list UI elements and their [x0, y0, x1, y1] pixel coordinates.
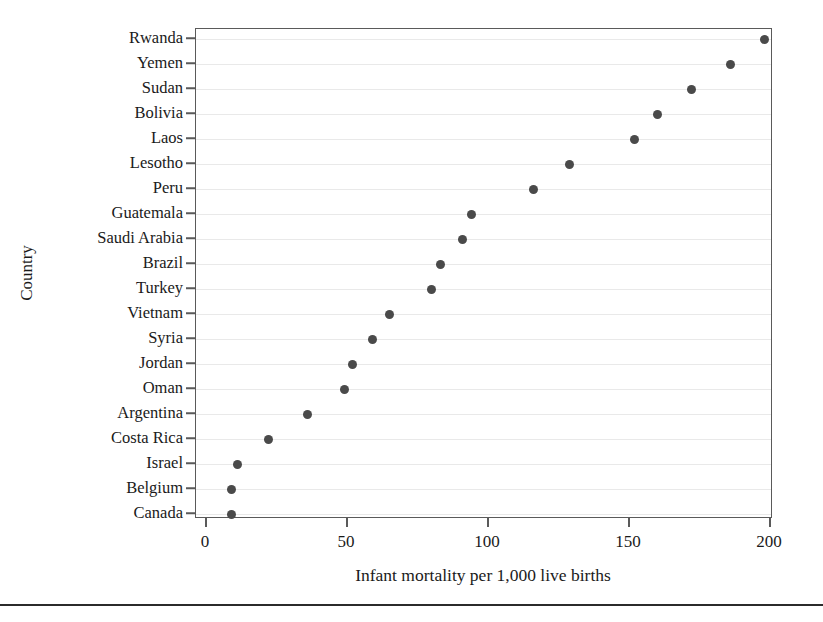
y-axis-tick-label: Rwanda [129, 30, 183, 47]
y-axis-tick-label: Costa Rica [111, 430, 183, 447]
data-point [630, 135, 639, 144]
y-axis-tick-label: Argentina [117, 405, 183, 422]
y-axis-tick-mark [186, 312, 195, 314]
y-axis-tick-labels: RwandaYemenSudanBoliviaLaosLesothoPeruGu… [0, 0, 183, 622]
data-point [653, 110, 662, 119]
gridline [196, 139, 771, 140]
gridline [196, 164, 771, 165]
y-axis-tick-label: Lesotho [130, 155, 183, 172]
gridline [196, 464, 771, 465]
gridline [196, 239, 771, 240]
data-point [385, 310, 394, 319]
y-axis-tick-mark [186, 487, 195, 489]
y-axis-tick-label: Saudi Arabia [97, 230, 183, 247]
data-point [565, 160, 574, 169]
gridline [196, 314, 771, 315]
y-axis-tick-label: Bolivia [134, 105, 183, 122]
data-point [467, 210, 476, 219]
y-axis-tick-mark [186, 187, 195, 189]
y-axis-tick-label: Guatemala [112, 205, 183, 222]
x-axis-tick-label: 100 [474, 532, 500, 552]
y-axis-tick-label: Brazil [143, 255, 183, 272]
data-point [436, 260, 445, 269]
x-axis-tick-label: 50 [338, 532, 355, 552]
y-axis-tick-mark [186, 387, 195, 389]
y-axis-tick-mark [186, 62, 195, 64]
gridline [196, 89, 771, 90]
x-axis-title: Infant mortality per 1,000 live births [355, 565, 611, 586]
y-axis-tick-label: Laos [151, 130, 183, 147]
y-axis-tick-label: Syria [148, 330, 183, 347]
y-axis-tick-mark [186, 37, 195, 39]
gridline [196, 514, 771, 515]
bottom-rule [0, 604, 823, 606]
x-axis-tick-label: 0 [201, 532, 210, 552]
y-axis-tick-mark [186, 512, 195, 514]
x-axis-tick-mark [487, 518, 489, 527]
gridline [196, 489, 771, 490]
y-axis-tick-mark [186, 212, 195, 214]
data-point [348, 360, 357, 369]
x-axis-tick-mark [628, 518, 630, 527]
gridline [196, 214, 771, 215]
y-axis-tick-mark [186, 337, 195, 339]
y-axis-tick-mark [186, 137, 195, 139]
y-axis-title: Country [17, 245, 37, 301]
y-axis-tick-mark [186, 362, 195, 364]
y-axis-tick-label: Peru [153, 180, 183, 197]
y-axis-tick-label: Yemen [137, 55, 183, 72]
data-point [303, 410, 312, 419]
y-axis-tick-label: Oman [143, 380, 183, 397]
y-axis-tick-mark [186, 237, 195, 239]
gridline [196, 189, 771, 190]
gridline [196, 264, 771, 265]
y-axis-tick-label: Jordan [139, 355, 183, 372]
y-axis-tick-label: Sudan [142, 80, 183, 97]
data-point [227, 510, 236, 519]
data-point [529, 185, 538, 194]
x-axis-tick-label: 150 [615, 532, 641, 552]
y-axis-tick-mark [186, 437, 195, 439]
data-point [264, 435, 273, 444]
x-axis-tick-mark [205, 518, 207, 527]
x-axis-tick-label: 200 [756, 532, 782, 552]
plot-area [195, 28, 772, 518]
gridline [196, 389, 771, 390]
y-axis-tick-label: Turkey [136, 280, 183, 297]
data-point [760, 35, 769, 44]
data-point [368, 335, 377, 344]
data-point [687, 85, 696, 94]
data-point [726, 60, 735, 69]
y-axis-tick-mark [186, 87, 195, 89]
gridline [196, 39, 771, 40]
y-axis-tick-mark [186, 162, 195, 164]
y-axis-tick-mark [186, 262, 195, 264]
y-axis-tick-label: Canada [134, 505, 183, 522]
gridline [196, 64, 771, 65]
data-point [227, 485, 236, 494]
data-point [340, 385, 349, 394]
gridline [196, 339, 771, 340]
y-axis-tick-mark [186, 112, 195, 114]
data-point [233, 460, 242, 469]
y-axis-tick-mark [186, 412, 195, 414]
y-axis-tick-label: Israel [146, 455, 183, 472]
gridline [196, 289, 771, 290]
x-axis-tick-mark [769, 518, 771, 527]
y-axis-tick-label: Vietnam [127, 305, 183, 322]
gridline [196, 364, 771, 365]
x-axis-tick-mark [346, 518, 348, 527]
gridline [196, 439, 771, 440]
gridline [196, 114, 771, 115]
chart-page: RwandaYemenSudanBoliviaLaosLesothoPeruGu… [0, 0, 823, 622]
data-point [427, 285, 436, 294]
data-point [458, 235, 467, 244]
y-axis-tick-label: Belgium [126, 480, 183, 497]
y-axis-tick-mark [186, 462, 195, 464]
y-axis-tick-mark [186, 287, 195, 289]
gridline [196, 414, 771, 415]
